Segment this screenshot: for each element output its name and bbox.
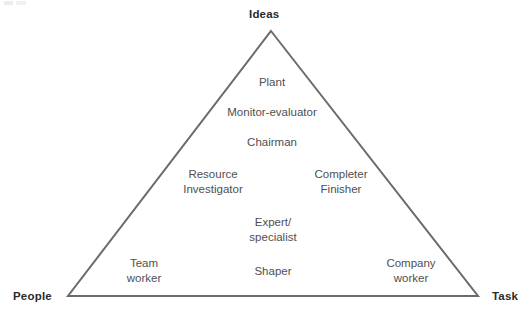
role-label-shaper: Shaper (254, 264, 291, 279)
role-label-expert-specialist: Expert/ specialist (249, 215, 296, 246)
role-line-2: worker (127, 271, 162, 286)
vertex-label-task: Task (492, 290, 518, 303)
vertex-label-ideas: Ideas (249, 8, 279, 21)
role-line-1: Resource (188, 168, 237, 180)
role-line-1: Monitor-evaluator (227, 106, 316, 118)
role-label-resource-investigator: Resource Investigator (183, 167, 242, 198)
belbin-triangle-diagram: Ideas People Task Plant Monitor-evaluato… (0, 0, 532, 319)
role-label-team-worker: Team worker (127, 256, 162, 287)
role-line-1: Shaper (254, 265, 291, 277)
role-line-1: Chairman (247, 136, 297, 148)
role-label-monitor-evaluator: Monitor-evaluator (227, 105, 316, 120)
role-line-2: Investigator (183, 182, 242, 197)
role-label-completer-finisher: Completer Finisher (314, 167, 367, 198)
role-label-chairman: Chairman (247, 135, 297, 150)
role-line-1: Plant (259, 76, 285, 88)
vertex-label-people: People (13, 290, 52, 303)
role-line-1: Team (130, 257, 158, 269)
role-line-2: worker (386, 271, 435, 286)
role-line-2: specialist (249, 230, 296, 245)
role-label-plant: Plant (259, 75, 285, 90)
role-line-1: Completer (314, 168, 367, 180)
role-line-2: Finisher (314, 182, 367, 197)
role-line-1: Expert/ (255, 216, 291, 228)
role-label-company-worker: Company worker (386, 256, 435, 287)
role-line-1: Company (386, 257, 435, 269)
